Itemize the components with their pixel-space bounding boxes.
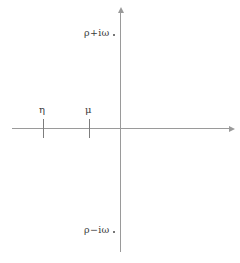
imaginary-axis-line	[120, 10, 121, 252]
pole-marker-upper-dot-icon	[113, 34, 115, 36]
pole-label-rho-minus-i-omega: ρ−iω	[84, 225, 110, 235]
imaginary-axis-arrowhead-icon	[118, 7, 124, 13]
real-axis-line	[12, 128, 232, 129]
tick-label-eta: η	[39, 105, 45, 115]
tick-mark-eta	[43, 119, 44, 138]
tick-label-mu: μ	[85, 105, 92, 115]
real-axis-arrowhead-icon	[229, 126, 235, 132]
complex-plane-diagram: η μ ρ+iω ρ−iω	[0, 0, 240, 263]
pole-label-rho-plus-i-omega: ρ+iω	[84, 28, 110, 38]
tick-mark-mu	[89, 119, 90, 138]
pole-marker-lower-dot-icon	[113, 231, 115, 233]
